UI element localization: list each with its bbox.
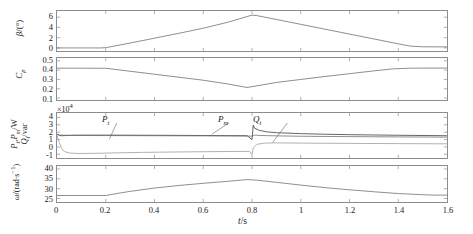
panel-cp [56, 57, 448, 101]
ytick-label: 30 [26, 185, 53, 194]
panel-power [56, 112, 448, 159]
ytick-label: 0.3 [26, 75, 53, 84]
ytick-label: 2 [26, 34, 53, 43]
ylabel-omega-text: ω/(rad·s−1) [12, 164, 21, 200]
xtick-label: 1.2 [336, 206, 364, 215]
annotation-pm: Pm [218, 114, 228, 126]
xtick-label: 0.4 [140, 206, 168, 215]
xtick-label: 1.6 [434, 206, 462, 215]
ylabel-omega: ω/(rad·s−1) [8, 162, 22, 202]
xtick-label: 1 [287, 206, 315, 215]
ytick-label: 0.5 [26, 56, 53, 65]
xtick-label: 1.4 [385, 206, 413, 215]
figure-root: β/(°) Cp ×104 Pt,Pm/W Qt/var Pt Pm Qt ω/… [0, 0, 473, 234]
ytick-label: 4 [26, 23, 53, 32]
ytick-label: -1 [26, 151, 53, 160]
ytick-label: 0.2 [26, 85, 53, 94]
ylabel-cp-text: Cp [14, 69, 24, 78]
xtick-label: 0 [42, 206, 70, 215]
panel-beta-plot [57, 11, 447, 51]
power-exponent-label: ×104 [57, 102, 73, 114]
xtick-label: 0.2 [91, 206, 119, 215]
panel-power-plot [57, 113, 447, 158]
xlabel: t/s [238, 216, 247, 226]
panel-beta [56, 10, 448, 52]
ytick-label: 35 [26, 174, 53, 183]
ytick-label: 3 [26, 120, 53, 129]
ytick-label: 0 [26, 143, 53, 152]
panel-omega-plot [57, 166, 447, 202]
xtick-label: 0.8 [238, 206, 266, 215]
ytick-label: 0.4 [26, 65, 53, 74]
annotation-qt: Qt [253, 114, 261, 126]
ytick-label: 4 [26, 112, 53, 121]
ytick-label: 0.1 [26, 95, 53, 104]
ytick-label: 0 [26, 44, 53, 53]
xtick-label: 0.6 [189, 206, 217, 215]
ylabel-beta-text: β/(°) [14, 20, 24, 37]
annotation-pt: Pt [102, 114, 109, 126]
ytick-label: 40 [26, 164, 53, 173]
ylabel-power-line1: Pt,Pm/W [9, 119, 19, 148]
panel-omega [56, 165, 448, 203]
panel-cp-plot [57, 58, 447, 100]
ylabel-beta: β/(°) [14, 7, 24, 49]
ytick-label: 6 [26, 12, 53, 21]
ytick-label: 25 [26, 195, 53, 204]
